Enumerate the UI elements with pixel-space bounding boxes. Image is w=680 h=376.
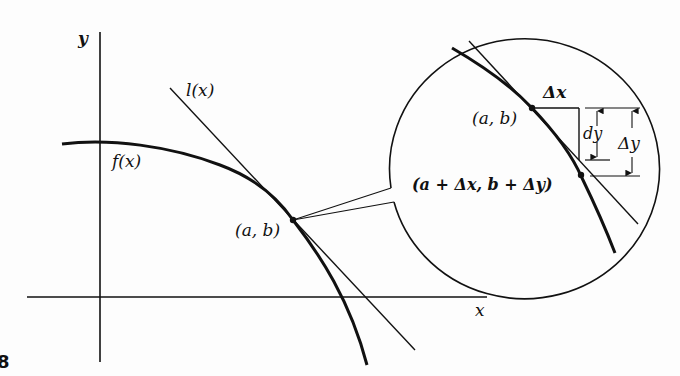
magnified-point-label: (a, b)	[472, 110, 517, 127]
second-point-label: (a + Δx, b + Δy)	[412, 177, 553, 193]
function-label: f(x)	[112, 153, 141, 170]
function-curve	[62, 142, 367, 365]
point-a-b-label: (a, b)	[235, 222, 280, 239]
figure-number: 8	[0, 351, 10, 372]
magnified-function-curve	[452, 48, 615, 253]
delta-y-label: Δy	[618, 135, 640, 152]
tangent-approximation-diagram: y x l(x) f(x) (a, b) (a, b) Δx dy Δy (a …	[0, 0, 680, 376]
x-axis-label: x	[475, 302, 485, 319]
diagram-graphics	[0, 0, 680, 376]
point-a-plus-dx	[578, 172, 584, 178]
y-axis-label: y	[78, 30, 88, 47]
magnifier-circle	[390, 39, 660, 299]
callout-edge-upper	[293, 188, 391, 220]
magnified-tangent-line	[469, 41, 638, 224]
callout-edge-lower	[293, 202, 394, 220]
tangent-label: l(x)	[186, 82, 214, 99]
delta-x-label: Δx	[543, 84, 566, 101]
dy-label: dy	[583, 126, 602, 142]
